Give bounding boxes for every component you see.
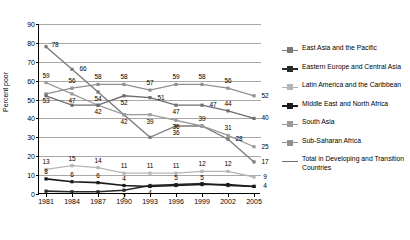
x-tick-label: 1993: [142, 198, 158, 205]
y-tick-label: 20: [27, 153, 35, 160]
legend-label: Total in Developing and Transition Count…: [302, 155, 408, 172]
data-label: 66: [79, 66, 86, 73]
data-label: 13: [42, 159, 49, 166]
data-label: 2: [122, 194, 126, 201]
data-label: 52: [261, 93, 268, 100]
legend-item[interactable]: South Asia: [282, 118, 408, 128]
data-label: 56: [224, 78, 231, 85]
legend-item[interactable]: Total in Developing and Transition Count…: [282, 155, 408, 172]
data-point-marker: [96, 166, 99, 169]
data-label: 58: [94, 74, 101, 81]
data-label: 47: [172, 109, 179, 116]
data-point-marker: [122, 94, 125, 97]
data-label: 39: [198, 116, 205, 123]
legend-swatch: [282, 65, 298, 73]
data-point-marker: [148, 113, 151, 116]
y-tick-label: 10: [27, 172, 35, 179]
data-point-marker: [252, 117, 255, 120]
data-point-marker: [252, 145, 255, 148]
data-label: 53: [42, 98, 49, 105]
data-point-marker: [122, 189, 125, 192]
legend-label: Middle East and North Africa: [302, 100, 388, 109]
data-point-marker: [122, 83, 125, 86]
x-tick-label: 1987: [90, 198, 106, 205]
plot-area: 0102030405060708090 19811984198719901993…: [38, 24, 260, 194]
data-label: 47: [209, 102, 216, 109]
x-tick-label: 1996: [168, 198, 184, 205]
data-label: 4: [148, 189, 152, 196]
legend-swatch: [282, 83, 298, 91]
data-point-marker: [96, 90, 99, 93]
data-point-marker: [200, 104, 203, 107]
data-label: 17: [261, 159, 268, 166]
legend-swatch: [282, 102, 298, 110]
data-point-marker: [252, 175, 255, 178]
data-label: 57: [146, 80, 153, 87]
data-label: 6: [96, 172, 100, 179]
data-point-marker: [96, 181, 99, 184]
data-label: 44: [224, 101, 231, 108]
data-point-marker: [226, 109, 229, 112]
data-point-marker: [96, 83, 99, 86]
legend-item[interactable]: Eastern Europe and Central Asia: [282, 63, 408, 73]
data-label: 4: [263, 183, 267, 190]
data-label: 4: [122, 175, 126, 182]
data-label: 51: [157, 94, 164, 101]
data-label: 52: [120, 100, 127, 107]
y-tick-label: 60: [27, 77, 35, 84]
data-label: 14: [94, 157, 101, 164]
legend-label: South Asia: [302, 118, 335, 127]
y-tick-label: 40: [27, 115, 35, 122]
data-point-marker: [44, 177, 47, 180]
data-label: 36: [172, 124, 179, 131]
legend-item[interactable]: Middle East and North Africa: [282, 100, 408, 110]
x-tick-label: 2002: [220, 198, 236, 205]
data-point-marker: [122, 113, 125, 116]
data-point-marker: [174, 104, 177, 107]
data-label: 42: [94, 109, 101, 116]
legend-item[interactable]: East Asia and the Pacific: [282, 44, 408, 54]
data-label: 56: [68, 78, 75, 85]
legend-item[interactable]: Latin America and the Caribbean: [282, 81, 408, 91]
data-label: 25: [261, 144, 268, 151]
data-label: 39: [146, 118, 153, 125]
y-tick-label: 90: [27, 21, 35, 28]
y-tick-label: 80: [27, 39, 35, 46]
data-label: 8: [44, 169, 48, 176]
data-point-marker: [226, 138, 229, 141]
data-point-marker: [226, 87, 229, 90]
data-point-marker: [96, 104, 99, 107]
data-point-marker: [200, 124, 203, 127]
legend-item[interactable]: Sub-Saharan Africa: [282, 137, 408, 147]
legend-label: Sub-Saharan Africa: [302, 137, 361, 146]
legend-swatch: [282, 139, 298, 147]
x-tick-label: 2005: [246, 198, 262, 205]
data-point-marker: [44, 81, 47, 84]
data-point-marker: [44, 190, 47, 193]
x-tick-label: 1984: [64, 198, 80, 205]
data-label: 59: [42, 72, 49, 79]
data-label: 36: [172, 130, 179, 137]
data-point-marker: [174, 184, 177, 187]
y-axis-title: Percent poor: [2, 72, 9, 112]
data-point-marker: [226, 134, 229, 137]
data-point-marker: [44, 45, 47, 48]
y-tick-label: 30: [27, 134, 35, 141]
data-label: 47: [68, 98, 75, 105]
data-label: 31: [224, 125, 231, 132]
data-point-marker: [148, 172, 151, 175]
data-point-marker: [252, 160, 255, 163]
data-label: 28: [235, 136, 242, 143]
data-point-marker: [70, 87, 73, 90]
data-point-marker: [226, 170, 229, 173]
data-label: 42: [120, 118, 127, 125]
data-point-marker: [174, 83, 177, 86]
data-label: 9: [263, 174, 267, 181]
legend-swatch: [282, 120, 298, 128]
data-point-marker: [70, 190, 73, 193]
data-point-marker: [174, 119, 177, 122]
data-point-marker: [148, 89, 151, 92]
data-label: 11: [173, 163, 180, 170]
data-point-marker: [70, 180, 73, 183]
series-line: [46, 47, 254, 162]
